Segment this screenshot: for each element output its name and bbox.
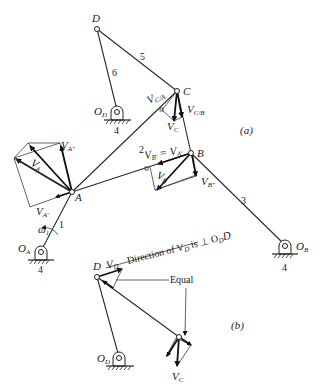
label-oa: OA (18, 242, 31, 256)
ground-pivot-od (104, 106, 131, 124)
label-part-b: (b) (231, 319, 244, 332)
vector-vd-component (103, 281, 113, 288)
link-1 (41, 192, 72, 251)
label-vc: VC (167, 120, 179, 134)
label-a: A (74, 191, 82, 203)
mechanism-diagram: D C B A 5 6 2 3 1 4 4 4 OD OA OB ω1 VA V… (0, 0, 323, 391)
vector-vc (174, 91, 177, 121)
label-d-b: D (92, 260, 101, 272)
label-ground-oa: 4 (38, 264, 43, 275)
part-a: D C B A 5 6 2 3 1 4 4 4 OD OA OB ω1 VA V… (14, 12, 309, 275)
label-vb-dprime: VB" (201, 175, 215, 189)
label-ob: OB (296, 240, 309, 254)
label-va-prime: VA' (36, 205, 49, 219)
joint-a (70, 190, 75, 195)
label-vca: VC/A (145, 87, 168, 107)
link-3 (191, 153, 285, 245)
ground-pivot-oa (28, 246, 54, 264)
joint-b (189, 151, 194, 156)
label-ground-od: 4 (114, 125, 119, 136)
label-d: D (91, 12, 100, 24)
joint-d (95, 27, 100, 32)
joint-c-b (177, 335, 182, 340)
link-od-d-b (97, 277, 119, 357)
label-vc-b: VC (172, 370, 184, 384)
part-b: D VD Direction of VD is ⊥ ODD Equal OD V… (92, 228, 244, 384)
label-od: OD (94, 105, 107, 119)
label-c: C (183, 85, 191, 97)
ground-pivot-od-b (106, 352, 134, 370)
equal-pointer-2 (185, 288, 186, 335)
label-omega1: ω1 (38, 223, 49, 237)
label-b: B (197, 147, 204, 159)
label-link-1: 1 (59, 219, 64, 230)
velocity-polygon-a (14, 143, 72, 207)
label-vd: VD (105, 257, 119, 273)
label-link-3: 3 (241, 195, 246, 206)
label-link-5: 5 (140, 51, 145, 62)
link-5 (97, 29, 177, 91)
label-ground-ob: 4 (282, 262, 287, 273)
label-vcb: VC/B (187, 103, 205, 117)
label-link-6: 6 (112, 67, 117, 78)
label-equal: Equal (170, 274, 194, 285)
joint-d-b (95, 275, 100, 280)
direction-note: Direction of VD is ⊥ ODD (126, 228, 233, 267)
label-part-a: (a) (240, 124, 253, 137)
label-va-dprime: VA" (61, 139, 75, 153)
label-vb-prime-eq: VB' = VA' (144, 144, 184, 163)
ground-pivot-ob (272, 240, 298, 258)
joint-c (175, 89, 180, 94)
label-od-b: OD (97, 352, 110, 366)
vector-vc-b (177, 91, 182, 117)
